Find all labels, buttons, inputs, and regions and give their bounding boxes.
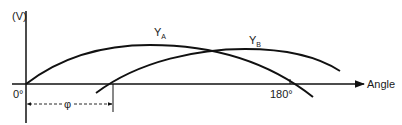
curve-b — [96, 49, 340, 93]
x-axis-label: Angle — [367, 78, 395, 90]
tick-180-label: 180° — [270, 88, 293, 100]
curve-a-label: YA — [154, 26, 166, 40]
y-axis-label: (V) — [12, 10, 27, 22]
phase-label: φ — [64, 98, 71, 110]
phase-shift-diagram: (V) Angle 0° 180° YA YB φ — [0, 0, 402, 125]
curve-b-label: YB — [249, 34, 261, 48]
origin-label: 0° — [13, 88, 24, 100]
